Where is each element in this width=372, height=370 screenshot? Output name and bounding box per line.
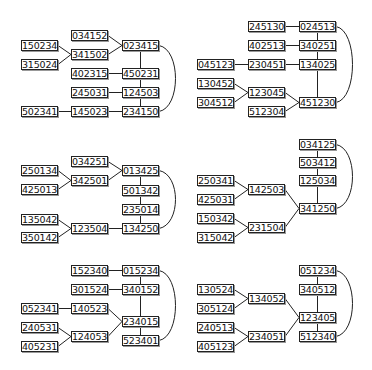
- node-134025: 134025: [299, 59, 336, 70]
- edge-034152-023415: [108, 36, 122, 46]
- arc-023415-234150: [159, 46, 176, 112]
- node-123045: 123045: [248, 87, 285, 98]
- node-502341: 502341: [21, 106, 58, 117]
- node-230451: 230451: [248, 59, 285, 70]
- node-234015: 234015: [122, 316, 159, 327]
- node-240513: 240513: [197, 322, 234, 333]
- arc-034125-341250: [336, 145, 353, 209]
- edge-405123-234051: [234, 337, 248, 347]
- edge-240531-124053: [58, 328, 71, 337]
- node-125034: 125034: [299, 175, 336, 186]
- node-350142: 350142: [21, 232, 58, 243]
- edge-304512-123045: [234, 93, 248, 103]
- edge-405231-124053: [58, 337, 71, 347]
- node-013425: 013425: [122, 165, 159, 176]
- edge-315042-231504: [234, 228, 248, 238]
- node-015234: 015234: [122, 265, 159, 276]
- node-235014: 235014: [122, 204, 159, 215]
- node-340152: 340152: [122, 284, 159, 295]
- edge-350142-123504: [58, 229, 71, 238]
- node-123504: 123504: [71, 223, 108, 234]
- edge-134052-123405: [285, 299, 299, 318]
- edge-250134-342501: [58, 171, 71, 181]
- node-245130: 245130: [248, 21, 285, 32]
- arc-013425-134250: [159, 171, 176, 229]
- edge-135042-123504: [58, 220, 71, 229]
- node-250134: 250134: [21, 165, 58, 176]
- node-425013: 425013: [21, 184, 58, 195]
- edge-240513-234051: [234, 328, 248, 337]
- node-134250: 134250: [122, 223, 159, 234]
- node-134052: 134052: [248, 293, 285, 304]
- node-450231: 450231: [122, 68, 159, 79]
- node-425031: 425031: [197, 194, 234, 205]
- node-034251: 034251: [71, 156, 108, 167]
- node-240531: 240531: [21, 322, 58, 333]
- edge-124053-234015: [108, 322, 122, 337]
- node-341250: 341250: [299, 203, 336, 214]
- edge-315024-341502: [58, 55, 71, 65]
- edge-150234-341502: [58, 46, 71, 55]
- node-501342: 501342: [122, 185, 159, 196]
- node-023415: 023415: [122, 40, 159, 51]
- node-315042: 315042: [197, 232, 234, 243]
- node-123405: 123405: [299, 312, 336, 323]
- node-130524: 130524: [197, 284, 234, 295]
- node-140523: 140523: [71, 303, 108, 314]
- node-250341: 250341: [197, 175, 234, 186]
- node-124053: 124053: [71, 331, 108, 342]
- node-304512: 304512: [197, 97, 234, 108]
- node-234150: 234150: [122, 106, 159, 117]
- node-234051: 234051: [248, 331, 285, 342]
- edge-425013-342501: [58, 181, 71, 190]
- node-503412: 503412: [299, 157, 336, 168]
- edge-130524-134052: [234, 290, 248, 299]
- diagram-canvas: 0341520234151502343415023150244023154502…: [0, 0, 372, 370]
- edge-250341-142503: [234, 181, 248, 190]
- edge-512304-451230: [285, 103, 299, 112]
- node-124503: 124503: [122, 87, 159, 98]
- node-231504: 231504: [248, 222, 285, 233]
- edge-034251-013425: [108, 162, 122, 171]
- node-051234: 051234: [299, 265, 336, 276]
- node-135042: 135042: [21, 214, 58, 225]
- edge-231504-341250: [285, 209, 299, 228]
- node-341502: 341502: [71, 49, 108, 60]
- node-130452: 130452: [197, 78, 234, 89]
- node-512304: 512304: [248, 106, 285, 117]
- edge-341502-023415: [108, 46, 122, 55]
- node-512340: 512340: [299, 331, 336, 342]
- node-052341: 052341: [21, 303, 58, 314]
- node-405123: 405123: [197, 341, 234, 352]
- node-034152: 034152: [71, 30, 108, 41]
- node-245031: 245031: [71, 87, 108, 98]
- node-150234: 150234: [21, 40, 58, 51]
- edge-130452-123045: [234, 84, 248, 93]
- arc-051234-512340: [336, 271, 353, 337]
- node-142503: 142503: [248, 184, 285, 195]
- node-340251: 340251: [299, 40, 336, 51]
- edge-142503-341250: [285, 190, 299, 209]
- node-045123: 045123: [197, 59, 234, 70]
- node-340512: 340512: [299, 284, 336, 295]
- node-523401: 523401: [122, 335, 159, 346]
- node-034125: 034125: [299, 139, 336, 150]
- edge-234051-123405: [285, 318, 299, 337]
- edge-425031-142503: [234, 190, 248, 200]
- node-305124: 305124: [197, 303, 234, 314]
- arc-015234-523401: [159, 271, 176, 341]
- node-024513: 024513: [299, 21, 336, 32]
- edge-305124-134052: [234, 299, 248, 309]
- node-150342: 150342: [197, 213, 234, 224]
- node-402513: 402513: [248, 40, 285, 51]
- node-402315: 402315: [71, 68, 108, 79]
- node-315024: 315024: [21, 59, 58, 70]
- node-145023: 145023: [71, 106, 108, 117]
- edge-342501-013425: [108, 171, 122, 181]
- edge-140523-234015: [108, 309, 122, 322]
- node-152340: 152340: [71, 265, 108, 276]
- edge-123045-451230: [285, 93, 299, 103]
- node-405231: 405231: [21, 341, 58, 352]
- arc-024513-451230: [336, 27, 353, 103]
- edge-150342-231504: [234, 219, 248, 228]
